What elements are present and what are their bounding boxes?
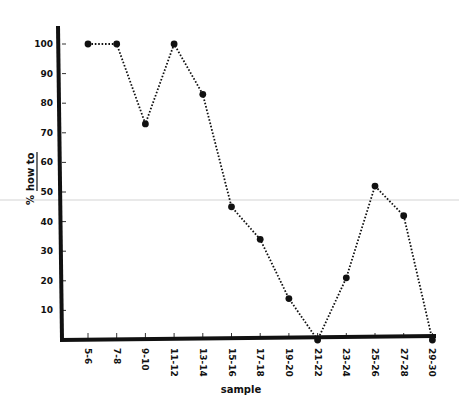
data-point xyxy=(85,41,92,48)
y-tick-label: 20 xyxy=(40,276,53,286)
x-tick-label: 21-22 xyxy=(313,348,323,377)
y-tick-label: 90 xyxy=(40,69,53,79)
x-tick-label: 9-10 xyxy=(140,348,150,371)
y-tick-label: 50 xyxy=(40,187,53,197)
y-title-prefix: % xyxy=(25,195,36,205)
line-chart: 102030405060708090100 5-67-89-1011-1213-… xyxy=(0,0,459,414)
data-point xyxy=(142,121,149,128)
y-axis xyxy=(58,26,62,340)
x-tick-label: 27-28 xyxy=(399,348,409,377)
x-tick-label: 29-30 xyxy=(427,348,437,377)
y-tick-label: 40 xyxy=(40,217,53,227)
y-tick-label: 30 xyxy=(40,246,53,256)
data-point xyxy=(286,295,293,302)
data-point xyxy=(314,337,321,344)
data-point xyxy=(400,212,407,219)
y-tick-label: 10 xyxy=(40,305,53,315)
x-tick-label: 19-20 xyxy=(284,348,294,377)
data-line xyxy=(88,44,432,340)
y-title-main: how to xyxy=(25,153,36,191)
data-point xyxy=(113,41,120,48)
data-point xyxy=(343,274,350,281)
data-point xyxy=(257,236,264,243)
data-point xyxy=(228,203,235,210)
y-axis-title: % how to xyxy=(25,152,37,205)
x-tick-label: 15-16 xyxy=(227,348,237,377)
data-point xyxy=(171,41,178,48)
x-axis-title: sample xyxy=(221,384,262,395)
y-tick-label: 100 xyxy=(34,39,53,49)
data-point xyxy=(429,337,436,344)
x-tick-label: 11-12 xyxy=(169,348,179,377)
data-point xyxy=(199,91,206,98)
x-tick-label: 13-14 xyxy=(198,348,208,377)
data-markers xyxy=(85,41,436,344)
x-tick-label: 25-26 xyxy=(370,348,380,377)
y-tick-label: 70 xyxy=(40,128,53,138)
x-tick-label: 7-8 xyxy=(112,348,122,364)
x-tick-label: 5-6 xyxy=(83,348,93,364)
data-point xyxy=(372,183,379,190)
y-tick-label: 60 xyxy=(40,157,53,167)
x-tick-label: 23-24 xyxy=(341,348,351,377)
x-tick-label: 17-18 xyxy=(255,348,265,377)
y-tick-label: 80 xyxy=(40,98,53,108)
